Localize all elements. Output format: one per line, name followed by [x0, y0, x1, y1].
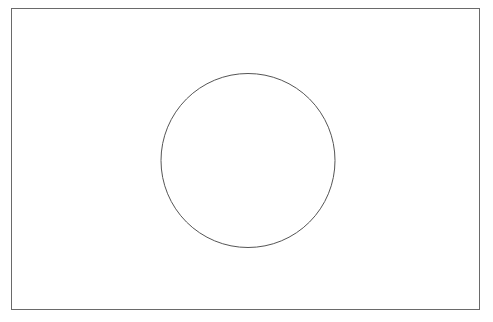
flag-border-rectangle — [12, 9, 480, 310]
flag-center-circle — [161, 74, 335, 248]
drawing-canvas — [0, 0, 493, 322]
flag-outline-figure — [0, 0, 493, 322]
